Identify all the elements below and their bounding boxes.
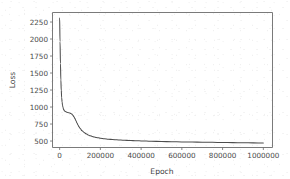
axes-frame — [53, 13, 273, 148]
x-tick-label: 400000 — [127, 151, 155, 160]
y-tick-label: 500 — [34, 137, 48, 146]
plot-border — [53, 13, 273, 148]
y-tick-label: 750 — [34, 120, 48, 129]
data-series-group — [60, 18, 264, 143]
y-tick-label: 2000 — [30, 35, 49, 44]
y-tick-label: 1250 — [30, 86, 49, 95]
y-tick-label: 1500 — [30, 69, 49, 78]
loss-curve-figure: 500750100012501500175020002250 020000040… — [0, 0, 290, 179]
x-tick-label: 1000000 — [247, 151, 279, 160]
x-tick-label: 800000 — [209, 151, 237, 160]
y-tick-label: 1750 — [30, 52, 49, 61]
loss-series-line — [60, 18, 264, 143]
y-axis-ticks: 500750100012501500175020002250 — [30, 18, 53, 146]
x-tick-label: 0 — [57, 151, 62, 160]
y-axis-title: Loss — [8, 72, 17, 89]
x-axis-title: Epoch — [150, 167, 173, 176]
y-tick-label: 1000 — [30, 103, 49, 112]
chart-canvas: 500750100012501500175020002250 020000040… — [0, 0, 290, 179]
y-tick-label: 2250 — [30, 18, 49, 27]
x-tick-label: 600000 — [168, 151, 196, 160]
x-tick-label: 200000 — [87, 151, 115, 160]
x-axis-ticks: 02000004000006000008000001000000 — [57, 148, 279, 160]
